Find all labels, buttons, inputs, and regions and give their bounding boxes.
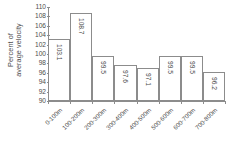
bar: 99.5 xyxy=(92,56,114,101)
bar: 108.7 xyxy=(70,13,92,101)
y-axis-tick-label: 106 xyxy=(26,23,46,30)
bar-value-label: 99.5 xyxy=(100,61,107,74)
y-axis-tick-label: 94 xyxy=(26,79,46,86)
y-axis-title-line-2: average velocity xyxy=(15,23,23,77)
bar: 96.2 xyxy=(203,72,225,101)
y-axis-tick-label: 92 xyxy=(26,88,46,95)
bar: 99.5 xyxy=(159,56,181,101)
y-axis-tick-label: 100 xyxy=(26,51,46,58)
bar-value-label: 97.6 xyxy=(122,70,129,83)
y-axis-tick-label: 108 xyxy=(26,13,46,20)
bar: 103.1 xyxy=(48,39,70,101)
y-axis-tick-label: 90 xyxy=(26,98,46,105)
bar-value-label: 99.5 xyxy=(189,61,196,74)
bar-value-label: 97.1 xyxy=(144,73,151,86)
bar-value-label: 103.1 xyxy=(56,44,63,61)
bar: 97.1 xyxy=(137,68,159,101)
x-axis-tick-labels: 0-100m100-200m200-300m300-400m400-500m50… xyxy=(48,101,242,141)
bar: 99.5 xyxy=(181,56,203,101)
bar: 97.6 xyxy=(114,65,136,101)
plot-area: 103.1108.799.597.697.199.599.596.2 xyxy=(48,7,225,101)
bar-value-label: 108.7 xyxy=(78,18,85,35)
y-axis-tick-label: 98 xyxy=(26,60,46,67)
y-axis-tick-label: 110 xyxy=(26,4,46,11)
bar-value-label: 96.2 xyxy=(211,77,218,90)
y-axis-tick-label: 102 xyxy=(26,41,46,48)
bar-chart: Percent of average velocity 110108106104… xyxy=(0,0,242,141)
y-axis-tick-label: 104 xyxy=(26,32,46,39)
y-axis-tick-labels: 1101081061041021009896949290 xyxy=(26,0,46,108)
y-axis-tick-label: 96 xyxy=(26,70,46,77)
y-axis-title: Percent of average velocity xyxy=(3,2,27,98)
bar-value-label: 99.5 xyxy=(166,61,173,74)
